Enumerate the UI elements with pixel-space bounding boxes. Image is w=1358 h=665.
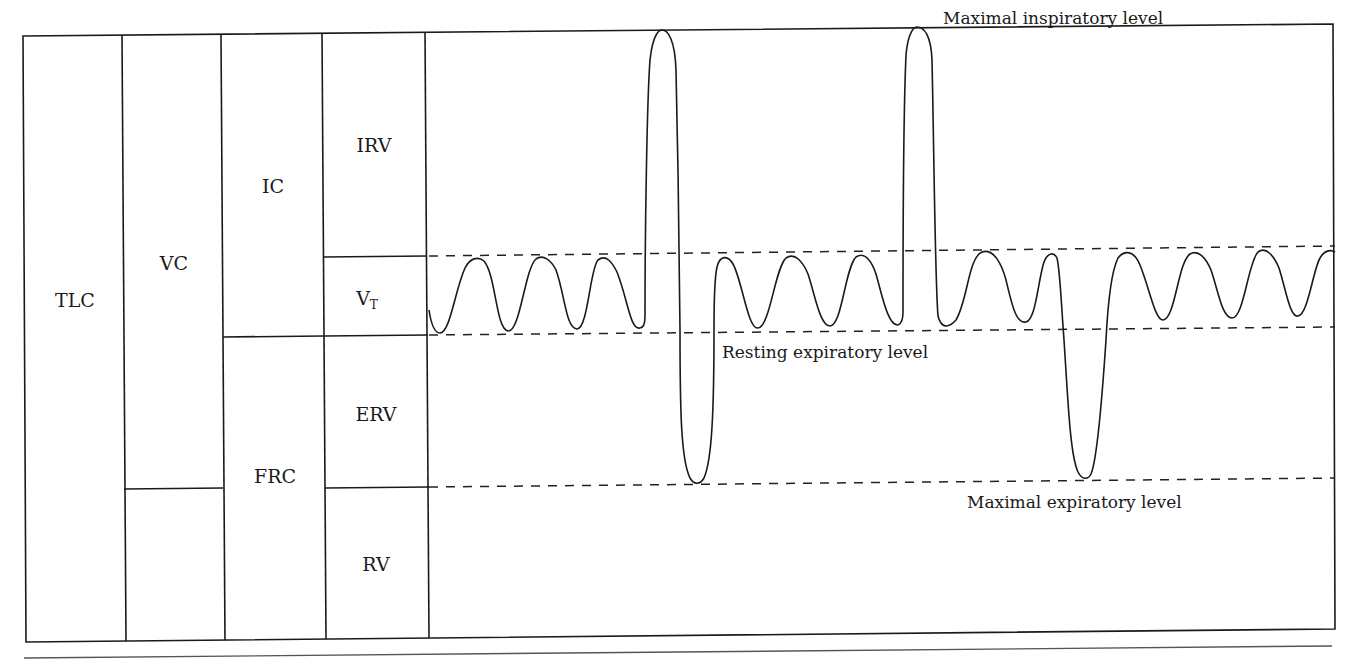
spirometer-trace (429, 27, 1335, 483)
resting-expiratory-level-line (429, 327, 1335, 335)
page-rule (24, 646, 1332, 658)
annotation-resting-expiratory-level: Resting expiratory level (722, 342, 928, 362)
label-irv: IRV (357, 134, 392, 156)
label-ic: IC (262, 175, 284, 197)
divider-vc-bottom (124, 488, 223, 489)
label-vc: VC (159, 252, 188, 274)
spirogram-diagram: TLC VC IC FRC IRV VT ERV RV Maximal insp… (0, 0, 1358, 665)
label-vt-main: V (355, 287, 370, 309)
spirogram-svg: TLC VC IC FRC IRV VT ERV RV Maximal insp… (0, 0, 1358, 665)
divider-erv-rv (325, 487, 429, 488)
label-rv: RV (362, 553, 390, 575)
divider-vt-erv (324, 335, 428, 336)
maximal-expiratory-level-line (429, 478, 1335, 487)
outer-frame (23, 24, 1335, 642)
label-frc: FRC (254, 465, 296, 487)
annotation-maximal-expiratory-level: Maximal expiratory level (967, 492, 1182, 512)
divider-tlc-vc (122, 35, 126, 641)
divider-ic-frc (223, 336, 324, 337)
label-erv: ERV (355, 403, 396, 425)
annotation-maximal-inspiratory-level: Maximal inspiratory level (943, 8, 1163, 28)
label-tlc: TLC (55, 289, 95, 311)
divider-irv-vt (323, 256, 427, 257)
label-vt: VT (355, 287, 378, 312)
label-vt-subscript: T (370, 298, 378, 312)
